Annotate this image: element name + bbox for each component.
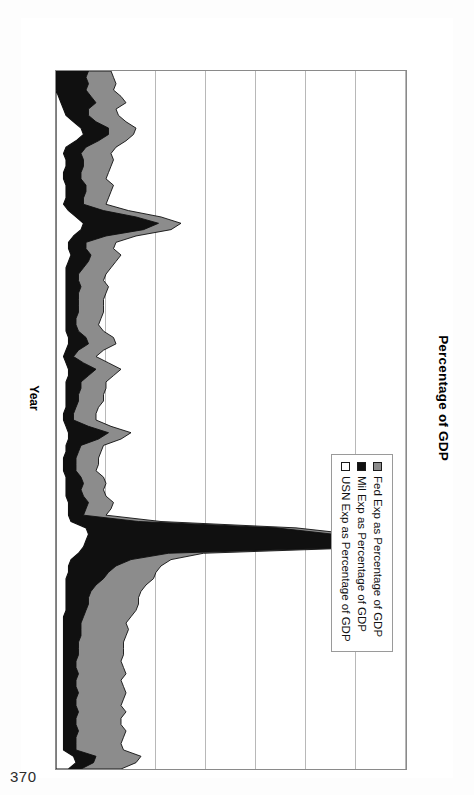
x-tick-1834 [55,350,56,351]
x-tick-1812 [55,210,56,211]
x-tick-1891 [55,711,56,712]
x-tick-1893 [55,724,56,725]
x-tick-1842 [55,400,56,401]
x-tick-1797 [55,115,56,116]
x-tick-1808 [55,185,56,186]
x-tick-1841 [55,394,56,395]
x-tick-1831 [55,331,56,332]
x-tick-1883 [55,661,56,662]
x-tick-1895 [55,737,56,738]
x-tick-1889 [55,699,56,700]
x-axis-title: Year [27,18,41,778]
x-tick-1868 [55,565,56,566]
x-tick-1864 [55,540,56,541]
y-tick-label-4: 4% [150,70,162,71]
x-tick-1817 [55,242,56,243]
x-tick-1870 [55,578,56,579]
x-tick-1896 [55,743,56,744]
legend-item-usn: USN Exp as Percentage of GDP [338,462,354,642]
y-tick-label-0: 0% [55,70,62,71]
x-tick-1801 [55,140,56,141]
x-tick-1820 [55,261,56,262]
x-tick-1866 [55,553,56,554]
x-tick-1832 [55,337,56,338]
x-tick-1800 [55,134,56,135]
legend-item-mil: Mil Exp as Percentage of GDP [354,462,370,642]
x-tick-1821 [55,267,56,268]
x-tick-1869 [55,572,56,573]
x-tick-1881 [55,648,56,649]
x-tick-1792 [55,83,56,84]
legend-label-usn: USN Exp as Percentage of GDP [338,476,354,642]
x-tick-1886 [55,680,56,681]
x-tick-1872 [55,591,56,592]
x-tick-1863 [55,534,56,535]
x-tick-1810 [55,197,56,198]
page-canvas: Percentage of GDP 0%2%4%6%8%10%12%14% 17… [0,0,474,795]
x-tick-1862 [55,527,56,528]
x-tick-1846 [55,426,56,427]
x-tick-1884 [55,667,56,668]
x-tick-1826 [55,299,56,300]
x-tick-1814 [55,223,56,224]
x-tick-1815 [55,229,56,230]
x-tick-1836 [55,362,56,363]
x-tick-1880 [55,642,56,643]
x-tick-1853 [55,470,56,471]
y-tick-label-10: 10% [300,70,312,71]
x-tick-1799 [55,128,56,129]
legend-label-mil: Mil Exp as Percentage of GDP [354,476,370,632]
x-tick-1830 [55,324,56,325]
x-tick-1860 [55,515,56,516]
x-tick-1890 [55,705,56,706]
x-tick-1852 [55,464,56,465]
x-tick-1892 [55,718,56,719]
x-tick-1805 [55,166,56,167]
legend-item-fed: Fed Exp as Percentage of GDP [370,462,386,642]
x-tick-1876 [55,616,56,617]
x-tick-1813 [55,216,56,217]
y-tick-label-14: 14% [400,70,407,71]
x-tick-1871 [55,584,56,585]
x-tick-1825 [55,293,56,294]
x-tick-1849 [55,445,56,446]
x-tick-1882 [55,654,56,655]
chart-title: Percentage of GDP [436,18,451,778]
x-tick-1843 [55,407,56,408]
x-tick-1894 [55,730,56,731]
x-tick-1818 [55,248,56,249]
x-tick-1898 [55,756,56,757]
x-tick-1804 [55,159,56,160]
x-tick-1806 [55,172,56,173]
x-tick-1879 [55,635,56,636]
x-tick-1838 [55,375,56,376]
x-tick-1874 [55,604,56,605]
x-tick-1791 [55,77,56,78]
x-tick-1803 [55,153,56,154]
x-tick-1875 [55,610,56,611]
x-tick-1798 [55,121,56,122]
y-tick-label-12: 12% [350,70,362,71]
area-series-layer [56,71,406,769]
x-tick-1807 [55,178,56,179]
x-tick-1899 [55,762,56,763]
x-tick-1887 [55,686,56,687]
x-tick-1824 [55,286,56,287]
chart-legend: Fed Exp as Percentage of GDPMil Exp as P… [331,454,393,652]
x-tick-1794 [55,96,56,97]
x-tick-1828 [55,312,56,313]
x-tick-1854 [55,477,56,478]
legend-swatch-fed-icon [374,462,383,471]
x-tick-1796 [55,109,56,110]
x-tick-1859 [55,508,56,509]
x-tick-1845 [55,420,56,421]
x-tick-1888 [55,692,56,693]
x-tick-1837 [55,369,56,370]
plot-area: 0%2%4%6%8%10%12%14% 17901795180018051810… [55,70,407,770]
x-tick-1835 [55,356,56,357]
x-tick-1790 [55,71,56,72]
x-tick-1822 [55,274,56,275]
rotated-figure-wrapper: Percentage of GDP 0%2%4%6%8%10%12%14% 17… [0,0,474,795]
x-tick-1823 [55,280,56,281]
x-tick-1833 [55,343,56,344]
